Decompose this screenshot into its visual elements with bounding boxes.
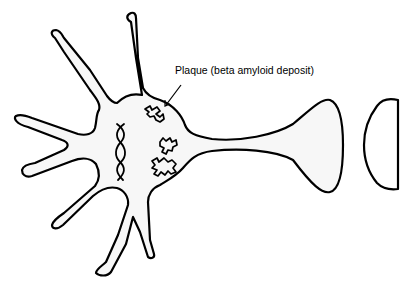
neuron-outline <box>15 13 343 276</box>
plaque-pointer-arrow <box>165 85 181 106</box>
plaque-label: Plaque (beta amyloid deposit) <box>175 64 314 76</box>
postsynaptic-membrane <box>364 99 398 189</box>
neuron-svg <box>0 0 403 289</box>
neuron-diagram: Plaque (beta amyloid deposit) <box>0 0 403 289</box>
